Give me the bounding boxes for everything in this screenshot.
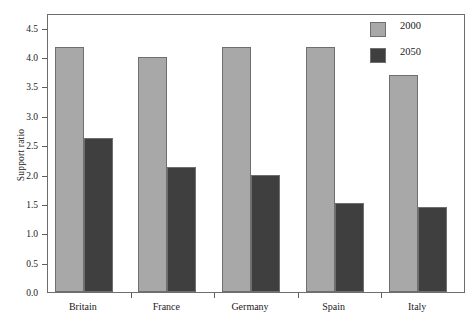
bar-italy-2050 [418,207,447,292]
legend-label-2000: 2000 [400,20,421,31]
bar-chart: Support ratio 0.00.51.01.52.02.53.03.54.… [0,0,476,327]
x-tick-mark [131,293,132,298]
y-tick-label: 1.5 [0,200,38,210]
y-tick-label: 0.0 [0,288,38,298]
x-axis-label-germany: Germany [231,301,268,312]
legend-swatch-2000 [370,22,386,37]
x-axis-label-italy: Italy [408,301,426,312]
y-tick-label: 2.0 [0,171,38,181]
bar-france-2050 [167,167,196,292]
x-tick-mark [298,293,299,298]
bar-germany-2050 [251,175,280,292]
bar-france-2000 [138,57,167,292]
y-tick-label: 3.0 [0,112,38,122]
x-tick-mark [214,293,215,298]
bar-germany-2000 [222,47,251,292]
bar-spain-2050 [335,203,364,292]
x-axis-label-spain: Spain [322,301,345,312]
y-tick-label: 3.5 [0,82,38,92]
x-axis-label-britain: Britain [69,301,97,312]
bar-britain-2050 [84,138,113,292]
bar-spain-2000 [306,47,335,292]
x-axis-label-france: France [153,301,180,312]
y-tick-label: 0.5 [0,259,38,269]
bar-britain-2000 [55,47,84,292]
legend-swatch-2050 [370,48,386,63]
y-tick-label: 2.5 [0,141,38,151]
y-tick-label: 1.0 [0,229,38,239]
bar-italy-2000 [389,75,418,292]
y-tick-label: 4.0 [0,53,38,63]
y-tick-label: 4.5 [0,24,38,34]
x-tick-mark [381,293,382,298]
legend-label-2050: 2050 [400,46,421,57]
